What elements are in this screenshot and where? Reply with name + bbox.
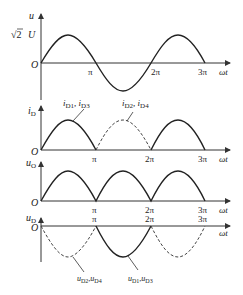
tick-2pi: 2π: [145, 214, 155, 224]
annotation-uD1-uD3: uD1,uD3: [128, 274, 153, 284]
current-d1-d3-arc-2: [151, 120, 205, 150]
x-label-wt: ωt: [219, 205, 228, 215]
tick-3pi: 3π: [198, 154, 208, 164]
rectified-output-curve: [41, 171, 205, 201]
current-d2-d4-arc: [96, 120, 151, 150]
tick-pi: π: [92, 214, 97, 224]
current-d1-d3-arc-1: [41, 120, 96, 150]
panel-output-voltage: uO O π 2π 3π ωt: [26, 157, 230, 215]
y-label-uO: uO: [26, 157, 36, 170]
panel-diode-voltage: uD O π 2π 3π ωt uD2,uD4 uD1,uD3: [26, 212, 230, 284]
panel-input-voltage: u √2 U O π 2π 3π ωt: [11, 10, 230, 100]
annotation-iD2-iD4: iD2, iD4: [122, 98, 149, 110]
rectifier-waveform-diagram: u √2 U O π 2π 3π ωt iD iD1, iD3 iD2, iD4…: [0, 0, 243, 295]
amplitude-sqrt: √2: [11, 29, 22, 40]
x-label-wt: ωt: [219, 228, 228, 238]
tick-pi: π: [88, 67, 93, 77]
tick-3pi: 3π: [198, 214, 208, 224]
origin-label: O: [31, 146, 38, 157]
voltage-d2-d4-arc-1: [41, 226, 96, 257]
y-label-iD: iD: [28, 105, 36, 118]
x-label-wt: ωt: [219, 67, 228, 77]
x-label-wt: ωt: [219, 154, 228, 164]
voltage-d2-d4-arc-2: [151, 226, 205, 257]
tick-pi: π: [92, 154, 97, 164]
annotation-uD2-uD4: uD2,uD4: [77, 274, 102, 284]
amplitude-u: U: [28, 29, 36, 40]
voltage-d1-d3-arc: [96, 226, 151, 257]
y-label-u: u: [29, 10, 34, 21]
panel-diode-current: iD iD1, iD3 iD2, iD4 O π 2π 3π ωt: [28, 98, 230, 164]
origin-label: O: [31, 197, 38, 208]
leader-d2-d4: [73, 257, 84, 272]
origin-label: O: [31, 59, 38, 70]
annotation-iD1-iD3: iD1, iD3: [63, 98, 90, 110]
origin-label: O: [31, 222, 38, 233]
tick-3pi: 3π: [198, 67, 208, 77]
leader-d1-d3: [128, 256, 138, 270]
leader-d2-d4: [127, 112, 133, 121]
tick-2pi: 2π: [151, 67, 161, 77]
tick-2pi: 2π: [145, 154, 155, 164]
leader-d1-d3: [73, 109, 84, 121]
